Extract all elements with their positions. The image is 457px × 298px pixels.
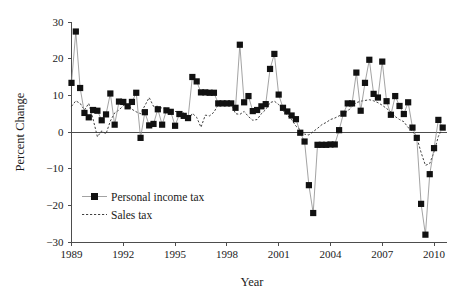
data-point-marker (211, 90, 217, 96)
data-point-marker (440, 125, 446, 131)
x-tick-label: 1992 (112, 248, 134, 260)
y-tick-label: 20 (53, 52, 65, 64)
data-point-marker (388, 112, 394, 118)
data-point-marker (73, 28, 79, 34)
data-point-marker (431, 145, 437, 151)
chart-legend: Personal income tax Sales tax (82, 191, 205, 221)
x-tick-label: 2001 (268, 248, 290, 260)
data-point-marker (293, 116, 299, 122)
data-point-marker (68, 80, 74, 86)
data-point-marker (383, 98, 389, 104)
data-point-marker (194, 78, 200, 84)
data-point-marker (267, 66, 273, 72)
data-point-marker (276, 92, 282, 98)
data-point-marker (271, 51, 277, 57)
y-axis-ticks (68, 22, 72, 242)
legend-label-personal-income-tax: Personal income tax (111, 191, 205, 203)
data-point-marker (155, 106, 161, 112)
data-point-marker (241, 99, 247, 105)
data-point-marker (340, 111, 346, 117)
data-point-marker (427, 171, 433, 177)
y-tick-label: 30 (53, 16, 65, 28)
data-point-marker (297, 130, 303, 136)
x-axis-tick-labels: 19891992199519982001200420072010 (61, 248, 446, 260)
data-point-marker (405, 99, 411, 105)
data-point-marker (332, 141, 338, 147)
x-tick-label: 2010 (423, 248, 446, 260)
data-point-marker (349, 100, 355, 106)
data-point-marker (336, 127, 342, 133)
data-point-marker (232, 105, 238, 111)
data-point-marker (107, 90, 113, 96)
data-point-marker (379, 59, 385, 65)
y-tick-label: −10 (46, 162, 64, 174)
data-point-marker (159, 122, 165, 128)
legend-marker-square-icon (91, 193, 98, 200)
data-point-marker (414, 135, 420, 141)
chart-figure: Percent Change Year 3020100−10−20−30 198… (0, 0, 457, 298)
data-point-marker (310, 210, 316, 216)
data-point-marker (86, 114, 92, 120)
data-point-marker (129, 99, 135, 105)
data-point-marker (418, 201, 424, 207)
data-point-marker (112, 122, 118, 128)
legend-label-sales-tax: Sales tax (111, 209, 152, 221)
data-point-marker (306, 182, 312, 188)
data-point-marker (172, 123, 178, 129)
data-point-marker (366, 57, 372, 63)
data-point-marker (133, 90, 139, 96)
x-tick-label: 1998 (216, 248, 239, 260)
data-point-marker (168, 109, 174, 115)
y-tick-label: 0 (58, 126, 64, 138)
data-point-marker (396, 103, 402, 109)
data-point-marker (435, 117, 441, 123)
data-point-marker (137, 135, 143, 141)
data-point-marker (103, 111, 109, 117)
data-point-marker (409, 125, 415, 131)
data-point-marker (99, 117, 105, 123)
x-tick-label: 2004 (319, 248, 342, 260)
data-point-marker (401, 111, 407, 117)
data-point-marker (142, 109, 148, 115)
data-point-marker (94, 108, 100, 114)
data-point-marker (358, 108, 364, 114)
data-point-marker (150, 121, 156, 127)
x-axis-title: Year (240, 275, 264, 289)
y-tick-label: 10 (53, 89, 65, 101)
data-point-marker (375, 94, 381, 100)
y-axis-tick-labels: 3020100−10−20−30 (46, 16, 64, 248)
data-point-marker (422, 232, 428, 238)
data-point-marker (237, 42, 243, 48)
y-tick-label: −30 (46, 236, 64, 248)
data-point-marker (77, 85, 83, 91)
data-point-marker (362, 80, 368, 86)
y-tick-label: −20 (46, 199, 64, 211)
chart-plot-area: Percent Change Year 3020100−10−20−30 198… (0, 0, 457, 298)
series-line-personal-income-tax (72, 32, 443, 235)
x-tick-label: 2007 (371, 248, 394, 260)
data-point-marker (301, 138, 307, 144)
data-point-marker (353, 70, 359, 76)
data-point-marker (392, 93, 398, 99)
x-tick-label: 1995 (164, 248, 187, 260)
x-tick-label: 1989 (61, 248, 84, 260)
data-point-marker (245, 93, 251, 99)
data-point-marker (263, 101, 269, 107)
series-markers-personal-income-tax (68, 28, 445, 237)
y-axis-title: Percent Change (13, 92, 27, 171)
data-point-marker (185, 115, 191, 121)
